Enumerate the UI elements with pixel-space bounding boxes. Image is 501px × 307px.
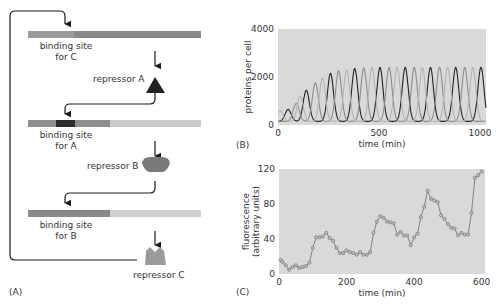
data-point-marker (419, 216, 422, 219)
data-point-marker (284, 264, 287, 267)
data-point-marker (412, 236, 415, 239)
data-point-marker (450, 226, 453, 229)
data-point-marker (409, 244, 412, 247)
y-tick-label: 120 (258, 164, 275, 174)
data-point-marker (406, 234, 409, 237)
data-point-marker (402, 234, 405, 237)
data-point-marker (426, 189, 429, 192)
x-tick-label: 400 (405, 277, 422, 287)
data-point-marker (291, 265, 294, 268)
data-point-marker (467, 233, 470, 236)
x-tick-label: 600 (473, 277, 490, 287)
data-point-marker (443, 217, 446, 220)
data-point-marker (352, 251, 355, 254)
y-tick-label: 40 (264, 234, 276, 244)
data-point-marker (348, 251, 351, 254)
data-point-marker (298, 266, 301, 269)
data-point-marker (396, 233, 399, 236)
data-point-marker (318, 236, 321, 239)
x-tick-label: 0 (276, 277, 282, 287)
data-point-marker (439, 214, 442, 217)
x-tick-label: 200 (338, 277, 355, 287)
data-point-marker (345, 249, 348, 252)
data-point-marker (480, 170, 483, 173)
data-point-marker (311, 246, 314, 249)
data-point-marker (453, 227, 456, 230)
data-point-marker (335, 246, 338, 249)
data-point-marker (358, 251, 361, 254)
y-tick-label: 0 (269, 269, 275, 279)
data-point-marker (379, 215, 382, 218)
data-point-marker (446, 223, 449, 226)
data-point-marker (463, 233, 466, 236)
data-point-marker (325, 231, 328, 234)
data-point-marker (382, 216, 385, 219)
y-tick-label: 80 (264, 199, 276, 209)
y-axis-label-line1: fluorescence (241, 192, 251, 250)
data-point-marker (315, 236, 318, 239)
data-point-marker (304, 265, 307, 268)
data-point-marker (385, 220, 388, 223)
plot-area (279, 169, 485, 274)
panel-c-chart: 020040060004080120time (min)fluorescence… (0, 0, 501, 307)
data-point-marker (321, 235, 324, 238)
data-point-marker (375, 220, 378, 223)
data-point-marker (331, 239, 334, 242)
data-point-marker (473, 176, 476, 179)
data-point-marker (429, 197, 432, 200)
data-point-marker (281, 260, 284, 263)
y-axis-label-line2: (arbitrary units) (251, 186, 261, 257)
y-axis-label: fluorescence(arbitrary units) (241, 186, 261, 257)
data-point-marker (423, 205, 426, 208)
data-point-marker (372, 231, 375, 234)
data-point-marker (456, 234, 459, 237)
data-point-marker (342, 251, 345, 254)
data-point-marker (399, 230, 402, 233)
data-point-marker (369, 251, 372, 254)
data-point-marker (392, 222, 395, 225)
data-point-marker (294, 264, 297, 267)
data-point-marker (328, 237, 331, 240)
data-point-marker (416, 232, 419, 235)
data-point-marker (288, 268, 291, 271)
data-point-marker (355, 253, 358, 256)
data-point-marker (477, 174, 480, 177)
x-axis-label: time (min) (358, 288, 405, 298)
panel-c-label: (C) (236, 287, 249, 298)
data-point-marker (365, 253, 368, 256)
data-point-marker (433, 199, 436, 202)
data-point-marker (338, 251, 341, 254)
data-point-marker (301, 265, 304, 268)
data-point-marker (389, 221, 392, 224)
data-point-marker (308, 261, 311, 264)
data-point-marker (362, 253, 365, 256)
data-point-marker (460, 231, 463, 234)
data-point-marker (470, 211, 473, 214)
data-point-marker (436, 201, 439, 204)
